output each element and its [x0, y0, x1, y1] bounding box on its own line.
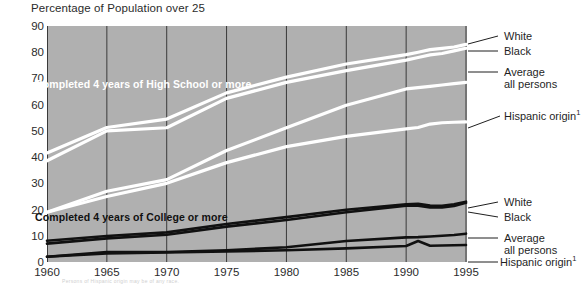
legend-leader-line	[468, 212, 498, 217]
legend-leader-line	[468, 36, 498, 44]
legend-leader-line	[468, 202, 498, 208]
footnote: Persons of Hispanic origin may be of any…	[62, 278, 179, 284]
education-attainment-line-chart: Percentage of Population over 25 9080706…	[0, 0, 586, 286]
legend-callout-lines	[0, 0, 586, 286]
legend-leader-line	[468, 116, 500, 128]
